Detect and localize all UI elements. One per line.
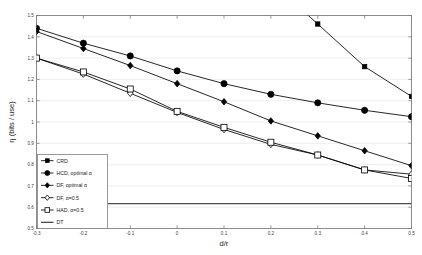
- y-tick-label: 0.8: [28, 162, 35, 167]
- y-tick-label: 0.9: [28, 141, 35, 146]
- data-marker: [409, 175, 415, 181]
- data-marker: [127, 53, 133, 59]
- chart-plot-area: -0.3-0.2-0.100.10.20.30.40.50.50.60.70.8…: [0, 0, 422, 255]
- x-tick-label: -0.2: [79, 231, 87, 236]
- y-tick-label: 0.6: [28, 205, 35, 210]
- data-marker: [316, 22, 320, 26]
- legend-item-had-0-5[interactable]: HAD, α=0.5: [41, 207, 84, 213]
- x-tick-label: -0.3: [33, 231, 41, 236]
- legend-label: DF, α=0.5: [57, 195, 80, 201]
- y-tick-label: 0.7: [28, 184, 35, 189]
- y-tick-label: 1.5: [28, 13, 35, 18]
- data-marker: [268, 139, 274, 145]
- y-tick-label: 1: [31, 120, 34, 125]
- data-marker: [174, 68, 180, 74]
- data-marker: [408, 114, 414, 120]
- legend-item-df-optimal-[interactable]: DF, optimal α: [41, 182, 87, 188]
- data-marker: [221, 81, 227, 87]
- legend-label: HAD, α=0.5: [57, 207, 84, 213]
- x-axis-title: d/r: [220, 239, 229, 248]
- x-tick-label: 0.3: [315, 231, 322, 236]
- x-tick-label: 0: [176, 231, 179, 236]
- data-marker: [362, 64, 366, 68]
- data-marker: [315, 100, 321, 106]
- legend-label: HCD, optimal α: [57, 170, 92, 176]
- data-marker: [45, 208, 50, 213]
- data-marker: [127, 86, 133, 92]
- data-marker: [80, 69, 86, 75]
- legend-item-hcd-optimal-[interactable]: HCD, optimal α: [41, 170, 92, 176]
- data-marker: [174, 108, 180, 114]
- y-axis-title: η (bits / use): [7, 101, 16, 143]
- data-marker: [45, 159, 49, 163]
- data-marker: [34, 55, 40, 61]
- x-tick-label: 0.2: [268, 231, 275, 236]
- x-tick-label: 0.1: [221, 231, 228, 236]
- legend-item-df-0-5[interactable]: DF, α=0.5: [41, 195, 79, 201]
- y-tick-label: 1.2: [28, 77, 35, 82]
- legend-label: DF, optimal α: [57, 182, 87, 188]
- data-marker: [362, 107, 368, 113]
- x-tick-label: 0.4: [361, 231, 368, 236]
- x-tick-label: -0.1: [126, 231, 134, 236]
- legend-label: CRD: [57, 158, 68, 164]
- y-tick-label: 1.4: [28, 35, 35, 40]
- data-marker: [315, 152, 321, 158]
- data-marker: [362, 167, 368, 173]
- y-tick-label: 1.1: [28, 98, 35, 103]
- x-tick-label: 0.5: [408, 231, 415, 236]
- legend-box: [38, 155, 108, 229]
- data-marker: [409, 94, 413, 98]
- chart-legend: CRDHCD, optimal αDF, optimal αDF, α=0.5H…: [38, 155, 108, 229]
- data-marker: [268, 91, 274, 97]
- legend-label: DT: [57, 219, 65, 225]
- data-marker: [221, 124, 227, 130]
- y-tick-label: 1.3: [28, 56, 35, 61]
- y-tick-label: 0.5: [28, 226, 35, 231]
- chart-figure: -0.3-0.2-0.100.10.20.30.40.50.50.60.70.8…: [0, 0, 422, 255]
- data-marker: [45, 171, 50, 176]
